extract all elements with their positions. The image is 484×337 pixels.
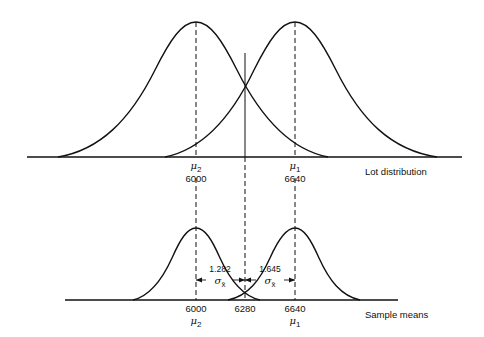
mu2-subscript: 2	[197, 320, 201, 329]
left-span-z: 1.282	[205, 265, 235, 274]
left-span-arrowhead-left	[196, 278, 202, 283]
right-span-arrowhead-right	[289, 278, 295, 283]
xbar-subscript: x̄	[271, 280, 275, 289]
xbar-subscript: x̄	[221, 280, 225, 289]
right-span-sigma: σx̄	[255, 276, 285, 289]
lot-curve-mu1	[165, 22, 437, 157]
mu1-subscript: 1	[296, 320, 300, 329]
bottom-mu1-label: μ1	[280, 316, 310, 329]
top-mu1-label: μ1	[280, 161, 310, 174]
left-span-arrowhead-right	[239, 278, 245, 283]
sample-curve-mu1	[228, 228, 360, 300]
bottom-cut-value: 6280	[230, 304, 260, 314]
bottom-right-value: 6640	[280, 304, 310, 314]
top-mu2-label: μ2	[181, 161, 211, 174]
right-span-arrowhead-left	[245, 278, 251, 283]
lot-distribution-caption: Lot distribution	[365, 166, 427, 177]
bottom-left-value: 6000	[181, 304, 211, 314]
sample-means-caption: Sample means	[365, 309, 428, 320]
top-mu2-value: 6000	[181, 174, 211, 184]
lot-curve-mu2	[58, 22, 328, 157]
right-span-z: 1.645	[255, 265, 285, 274]
bottom-mu2-label: μ2	[181, 316, 211, 329]
left-span-sigma: σx̄	[205, 276, 235, 289]
top-mu1-value: 6640	[280, 174, 310, 184]
